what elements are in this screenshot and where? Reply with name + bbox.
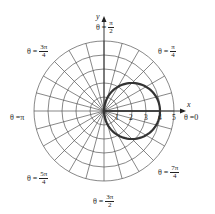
- angle-label-7pi-4: θ = 7π4: [158, 165, 179, 180]
- grid-spoke: [36, 111, 104, 129]
- angle-label-pi: θ = π: [10, 114, 24, 122]
- grid-spoke: [69, 50, 104, 111]
- grid-spoke: [104, 111, 139, 172]
- tick-label: 5: [172, 113, 176, 122]
- angle-label-5pi-4: θ = 5π4: [27, 171, 48, 186]
- angle-label-3pi-4: θ = 3π4: [27, 44, 48, 59]
- grid-spoke: [104, 50, 139, 111]
- grid-spoke: [55, 111, 104, 160]
- grid-spoke: [104, 76, 165, 111]
- grid-spoke: [43, 111, 104, 146]
- angle-label-pi-4: θ = π4: [158, 44, 176, 59]
- tick-label: 3: [144, 113, 148, 122]
- grid-spoke: [43, 76, 104, 111]
- angle-label-3pi-2: θ = 3π2: [93, 194, 114, 209]
- tick-label: 4: [158, 113, 162, 122]
- angle-label-0: θ = 0: [184, 114, 198, 122]
- grid-spoke: [69, 111, 104, 172]
- grid-spoke: [86, 43, 104, 111]
- tick-label: 1: [115, 113, 119, 122]
- grid-spoke: [36, 93, 104, 111]
- grid-spoke: [86, 111, 104, 179]
- angle-label-pi-2: θ = π2: [96, 20, 114, 35]
- axes: [102, 16, 187, 114]
- tick-label: 2: [129, 113, 133, 122]
- grid-spoke: [104, 93, 172, 111]
- x-axis-label: x: [187, 100, 191, 109]
- grid-spoke: [55, 62, 104, 111]
- grid-spoke: [104, 111, 165, 146]
